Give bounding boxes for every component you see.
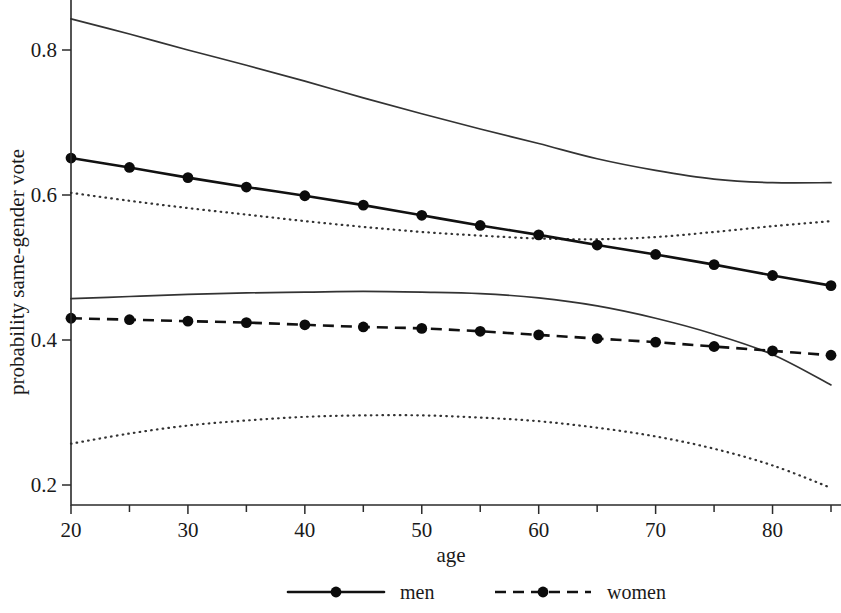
x-tick-label: 40 <box>294 518 315 542</box>
data-point-men <box>416 210 427 221</box>
y-tick-label: 0.4 <box>31 328 58 352</box>
data-point-men <box>475 220 486 231</box>
data-series-layer <box>66 153 837 361</box>
confidence-band-layer <box>71 19 831 488</box>
data-point-men <box>592 240 603 251</box>
data-point-women <box>299 319 310 330</box>
data-point-men <box>183 172 194 183</box>
data-point-women <box>826 350 837 361</box>
x-axis-title: age <box>436 543 465 567</box>
data-point-women <box>124 314 135 325</box>
data-point-men <box>767 270 778 281</box>
y-tick-label: 0.8 <box>31 38 57 62</box>
women-lower-ci <box>71 415 831 488</box>
data-point-men <box>358 200 369 211</box>
legend-item-men: men <box>288 581 434 603</box>
data-point-men <box>124 162 135 173</box>
chart-canvas: 0.20.40.60.820304050607080ageprobability… <box>0 0 841 613</box>
data-point-men <box>533 229 544 240</box>
data-point-men <box>299 190 310 201</box>
x-tick-label: 80 <box>762 518 783 542</box>
legend-marker-men <box>331 587 342 598</box>
axis-frame <box>71 0 841 505</box>
data-point-women <box>475 326 486 337</box>
y-axis-title: probability same-gender vote <box>5 149 29 395</box>
x-tick-label: 20 <box>61 518 82 542</box>
data-point-women <box>416 323 427 334</box>
legend-item-women: women <box>495 581 666 603</box>
legend-label-women: women <box>607 581 666 603</box>
x-tick-label: 60 <box>528 518 549 542</box>
data-point-women <box>183 316 194 327</box>
data-point-men <box>709 259 720 270</box>
axis-layer <box>62 0 841 514</box>
data-point-women <box>241 317 252 328</box>
y-tick-label: 0.6 <box>31 183 57 207</box>
legend-marker-women <box>538 587 549 598</box>
x-tick-label: 50 <box>411 518 432 542</box>
x-tick-label: 70 <box>645 518 666 542</box>
women-upper-ci <box>71 193 831 239</box>
legend-label-men: men <box>400 581 434 603</box>
axis-label-layer: 0.20.40.60.820304050607080ageprobability… <box>5 38 783 567</box>
data-point-women <box>767 345 778 356</box>
chart-legend: menwomen <box>288 581 666 603</box>
x-tick-label: 30 <box>177 518 198 542</box>
men-lower-ci <box>71 291 831 385</box>
data-point-women <box>358 322 369 333</box>
chart-figure: 0.20.40.60.820304050607080ageprobability… <box>0 0 841 613</box>
data-point-women <box>650 337 661 348</box>
data-point-men <box>241 182 252 193</box>
men-upper-ci <box>71 19 831 183</box>
y-tick-label: 0.2 <box>31 473 57 497</box>
data-point-women <box>533 330 544 341</box>
data-point-men <box>650 249 661 260</box>
data-point-women <box>592 333 603 344</box>
data-point-women <box>709 341 720 352</box>
data-point-men <box>826 280 837 291</box>
